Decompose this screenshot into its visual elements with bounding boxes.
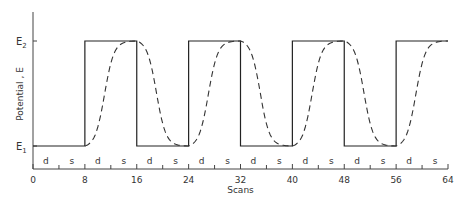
x-axis-title: Scans <box>227 185 254 195</box>
segment-label: s <box>329 156 334 166</box>
segment-label: s <box>121 156 126 166</box>
segment-label: s <box>173 156 178 166</box>
x-tick-label: 48 <box>339 175 351 185</box>
segment-label: s <box>70 156 75 166</box>
segment-label: d <box>43 156 49 166</box>
potential-vs-scans-chart: E2E10816243240485664dsdsdsdsdsdsdsdsScan… <box>0 0 466 198</box>
x-tick-label: 32 <box>235 175 246 185</box>
segment-label: d <box>354 156 360 166</box>
x-tick-label: 0 <box>30 175 36 185</box>
x-tick-label: 16 <box>131 175 143 185</box>
segment-label: d <box>147 156 153 166</box>
response-dashed-line <box>85 41 448 146</box>
x-tick-label: 56 <box>390 175 402 185</box>
segment-label: d <box>199 156 205 166</box>
segment-label: s <box>277 156 282 166</box>
x-tick-label: 40 <box>287 175 299 185</box>
series-group <box>33 41 448 146</box>
x-tick-label: 64 <box>442 175 454 185</box>
y-tick-label: E2 <box>16 36 27 50</box>
segment-label: s <box>225 156 230 166</box>
square-wave-line <box>33 41 448 146</box>
labels: E2E10816243240485664dsdsdsdsdsdsdsdsScan… <box>15 36 454 195</box>
x-tick-label: 24 <box>183 175 195 185</box>
segment-label: d <box>302 156 308 166</box>
segment-label: d <box>251 156 257 166</box>
x-tick-label: 8 <box>82 175 88 185</box>
y-axis-title: Potential , E <box>15 67 25 121</box>
segment-label: s <box>433 156 438 166</box>
y-tick-label: E1 <box>16 141 27 155</box>
segment-label: d <box>406 156 412 166</box>
segment-label: s <box>381 156 386 166</box>
segment-label: d <box>95 156 101 166</box>
